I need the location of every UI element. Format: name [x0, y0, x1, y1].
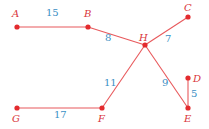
node-h	[142, 42, 147, 47]
weighted-graph: 1587119517ABCHDEFG	[0, 0, 209, 129]
node-label-f: F	[97, 113, 106, 124]
labels-group: 1587119517ABCHDEFG	[11, 2, 201, 124]
node-d	[185, 75, 190, 80]
node-e	[185, 105, 190, 110]
edge-weight-label: 9	[162, 77, 168, 88]
edge-weight-label: 11	[104, 77, 117, 88]
node-label-c: C	[184, 2, 192, 13]
node-b	[85, 24, 90, 29]
node-a	[14, 24, 19, 29]
edge-weight-label: 5	[191, 88, 197, 99]
node-g	[14, 105, 19, 110]
edges-group	[17, 17, 188, 108]
edge-weight-label: 17	[54, 109, 67, 120]
node-label-a: A	[11, 8, 19, 19]
edge-weight-label: 7	[165, 33, 171, 44]
node-label-d: D	[192, 73, 201, 84]
edge-weight-label: 15	[46, 7, 59, 18]
node-label-e: E	[183, 113, 192, 124]
edge-weight-label: 8	[105, 32, 111, 43]
node-label-h: H	[138, 32, 148, 43]
node-f	[99, 105, 104, 110]
node-label-b: B	[83, 8, 91, 19]
edge-b-h	[88, 27, 145, 45]
node-label-g: G	[12, 113, 20, 124]
nodes-group	[14, 14, 190, 110]
node-c	[185, 14, 190, 19]
